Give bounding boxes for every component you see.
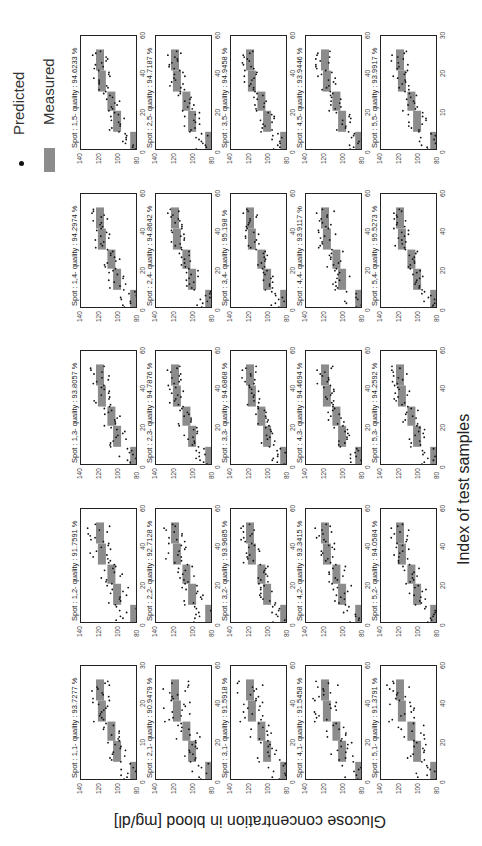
x-tick-label: 0 (289, 308, 296, 312)
y-tick-label: 120 (320, 468, 327, 479)
y-tick-label: 100 (264, 311, 271, 322)
legend: Predicted Measured (0, 20, 70, 170)
y-tick-label: 120 (320, 153, 327, 164)
y-tick-label: 100 (189, 783, 196, 794)
y-tick-label: 100 (414, 783, 421, 794)
y-tick-label: 100 (114, 626, 121, 637)
y-tick-label: 100 (339, 311, 346, 322)
y-tick-label: 120 (245, 468, 252, 479)
subplot-title: Spot : 3,1- quality : 91.5918 % (220, 678, 229, 778)
y-tick-label: 140 (376, 468, 383, 479)
y-tick-label: 100 (339, 626, 346, 637)
subplot-title: Spot : 2,1- quality : 90.9479 % (145, 678, 154, 778)
y-tick-label: 120 (170, 311, 177, 322)
subplot-title: Spot : 4,2- quality : 93.3415 % (295, 521, 304, 621)
x-tick-label: 10 (439, 108, 446, 115)
y-tick-label: 100 (189, 311, 196, 322)
y-tick-label: 140 (226, 468, 233, 479)
x-tick-label: 0 (214, 465, 221, 469)
x-tick-label: 60 (289, 32, 296, 39)
x-tick-label: 0 (364, 780, 371, 784)
y-tick-label: 120 (170, 153, 177, 164)
subplot-title: Spot : 1,4- quality : 94.2974 % (70, 206, 79, 306)
x-tick-label: 60 (214, 662, 221, 669)
subplot-title: Spot : 1,5- quality : 94.6233 % (70, 48, 79, 148)
y-tick-label: 100 (114, 153, 121, 164)
subplot-title: Spot : 5,1- quality : 91.3791 % (370, 678, 379, 778)
y-tick-label: 140 (301, 468, 308, 479)
x-tick-label: 60 (439, 505, 446, 512)
y-tick-label: 100 (264, 783, 271, 794)
x-tick-label: 0 (139, 465, 146, 469)
y-tick-label: 140 (226, 153, 233, 164)
x-axis-title: Index of test samples (455, 414, 473, 565)
subplot-title: Spot : 1,2- quality : 91.7591 % (70, 521, 79, 621)
y-tick-label: 100 (414, 311, 421, 322)
x-tick-label: 20 (439, 423, 446, 430)
subplot-title: Spot : 4,1- quality : 91.5458 % (295, 678, 304, 778)
subplot-spot-5-4 (380, 193, 437, 308)
x-tick-label: 60 (289, 662, 296, 669)
x-tick-label: 60 (364, 347, 371, 354)
subplot-title: Spot : 2,5- quality : 94.7187 % (145, 48, 154, 148)
y-tick-label: 120 (170, 468, 177, 479)
x-tick-label: 60 (439, 347, 446, 354)
subplot-spot-1-1 (80, 665, 137, 780)
x-tick-label: 0 (289, 465, 296, 469)
subplot-title: Spot : 4,3- quality : 94.4694 % (295, 363, 304, 463)
y-tick-label: 120 (95, 153, 102, 164)
x-tick-label: 30 (139, 662, 146, 669)
y-tick-label: 100 (414, 626, 421, 637)
x-tick-label: 60 (289, 347, 296, 354)
y-tick-label: 120 (95, 626, 102, 637)
x-tick-label: 20 (439, 266, 446, 273)
subplot-spot-3-5 (230, 35, 287, 150)
y-tick-label: 120 (170, 626, 177, 637)
x-tick-label: 40 (439, 228, 446, 235)
y-tick-label: 120 (95, 468, 102, 479)
subplot-title: Spot : 1,1- quality : 93.7277 % (70, 678, 79, 778)
y-tick-label: 100 (339, 783, 346, 794)
y-tick-label: 80 (358, 157, 365, 164)
y-tick-label: 80 (208, 787, 215, 794)
x-tick-label: 60 (139, 32, 146, 39)
subplot-spot-5-5 (380, 35, 437, 150)
y-tick-label: 140 (301, 783, 308, 794)
y-tick-label: 100 (264, 468, 271, 479)
y-tick-label: 120 (320, 311, 327, 322)
x-tick-label: 60 (439, 662, 446, 669)
y-tick-label: 120 (95, 783, 102, 794)
x-tick-label: 0 (139, 623, 146, 627)
x-tick-label: 60 (364, 662, 371, 669)
x-tick-label: 40 (439, 543, 446, 550)
y-tick-label: 100 (414, 153, 421, 164)
y-tick-label: 140 (301, 626, 308, 637)
y-tick-label: 80 (433, 787, 440, 794)
x-tick-label: 0 (364, 150, 371, 154)
subplot-spot-4-4 (305, 193, 362, 308)
y-tick-label: 140 (151, 468, 158, 479)
y-tick-label: 140 (76, 783, 83, 794)
subplot-title: Spot : 3,3- quality : 94.6868 % (220, 363, 229, 463)
y-tick-label: 100 (189, 153, 196, 164)
x-tick-label: 60 (214, 32, 221, 39)
subplot-spot-5-1 (380, 665, 437, 780)
x-tick-label: 20 (439, 581, 446, 588)
x-tick-label: 0 (214, 780, 221, 784)
y-tick-label: 80 (208, 630, 215, 637)
y-tick-label: 140 (151, 626, 158, 637)
subplot-spot-3-2 (230, 508, 287, 623)
subplot-spot-1-3 (80, 350, 137, 465)
x-tick-label: 0 (214, 308, 221, 312)
x-tick-label: 60 (364, 505, 371, 512)
y-tick-label: 80 (358, 315, 365, 322)
y-tick-label: 100 (339, 468, 346, 479)
subplot-spot-2-1 (155, 665, 212, 780)
subplot-title: Spot : 4,4- quality : 93.9117 % (295, 206, 304, 306)
y-tick-label: 80 (283, 315, 290, 322)
subplot-spot-4-2 (305, 508, 362, 623)
subplot-spot-5-2 (380, 508, 437, 623)
y-tick-label: 80 (208, 315, 215, 322)
y-tick-label: 140 (76, 311, 83, 322)
subplot-title: Spot : 3,2- quality : 93.9685 % (220, 521, 229, 621)
